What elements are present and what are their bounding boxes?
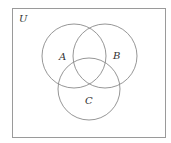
universe-label: U [19,13,28,24]
set-a-label: A [58,51,66,62]
set-c-circle [58,58,120,120]
set-b-circle [73,24,137,88]
venn-diagram: U A B C [0,0,171,143]
set-a-circle [42,24,106,88]
set-b-label: B [112,50,120,61]
set-c-label: C [85,95,93,106]
